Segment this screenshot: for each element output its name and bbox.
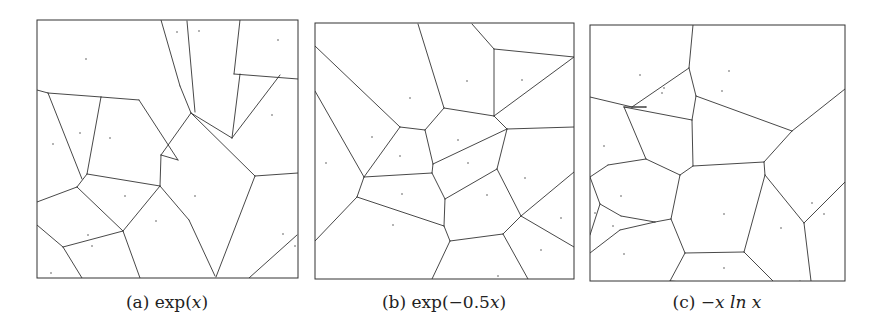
voronoi-edge <box>357 177 364 197</box>
voronoi-site <box>603 145 605 147</box>
voronoi-site <box>392 224 394 226</box>
voronoi-edge <box>764 162 765 175</box>
voronoi-edge <box>782 281 800 290</box>
voronoi-edge <box>123 186 160 231</box>
voronoi-edge <box>445 169 497 199</box>
voronoi-edge <box>655 219 671 222</box>
voronoi-edge <box>692 120 693 166</box>
voronoi-edge <box>63 247 82 278</box>
voronoi-site <box>486 194 488 196</box>
voronoi-site <box>325 162 327 164</box>
voronoi-edge <box>696 96 792 131</box>
voronoi-figure <box>0 0 879 334</box>
voronoi-edge <box>521 216 574 247</box>
voronoi-edge <box>590 165 608 177</box>
voronoi-edge <box>433 129 507 164</box>
caption-c-var: x ln x <box>715 292 761 312</box>
voronoi-edge <box>503 216 521 234</box>
voronoi-site <box>780 227 782 229</box>
voronoi-edge <box>357 197 444 226</box>
caption-a-text: (a) exp( <box>126 292 192 312</box>
voronoi-site <box>282 233 284 235</box>
voronoi-site <box>52 143 54 145</box>
voronoi-edge <box>507 127 574 129</box>
voronoi-site <box>721 90 723 92</box>
voronoi-edge <box>139 100 178 160</box>
caption-a-var: x <box>192 292 202 312</box>
voronoi-site <box>521 79 523 81</box>
voronoi-edge <box>444 108 494 116</box>
voronoi-edge <box>680 166 693 175</box>
voronoi-site <box>811 202 813 204</box>
caption-b: (b) exp(−0.5x) <box>382 292 506 312</box>
caption-a-suffix: ) <box>201 292 208 312</box>
voronoi-site <box>728 70 730 72</box>
voronoi-edge <box>590 230 620 253</box>
voronoi-edge <box>315 91 364 177</box>
caption-c: (c) −x ln x <box>673 292 762 312</box>
voronoi-site <box>277 39 279 41</box>
voronoi-edge <box>161 113 191 155</box>
voronoi-site <box>194 195 196 197</box>
voronoi-edge <box>472 24 494 49</box>
voronoi-edge <box>671 175 680 219</box>
voronoi-edge <box>608 159 646 165</box>
voronoi-edge <box>670 281 782 290</box>
voronoi-site <box>155 220 157 222</box>
voronoi-edge <box>425 108 444 130</box>
voronoi-edge <box>744 252 782 290</box>
voronoi-edge <box>364 173 432 177</box>
voronoi-panel-a <box>37 20 298 278</box>
voronoi-edge <box>494 49 574 57</box>
caption-a: (a) exp(x) <box>126 292 208 312</box>
voronoi-edge <box>187 21 195 112</box>
voronoi-edge <box>249 235 297 278</box>
voronoi-site <box>620 195 622 197</box>
voronoi-panel-c <box>590 25 845 290</box>
voronoi-edge <box>503 234 528 279</box>
voronoi-edge <box>689 68 696 96</box>
voronoi-site <box>409 97 411 99</box>
voronoi-edges <box>315 24 574 279</box>
voronoi-site <box>371 136 373 138</box>
voronoi-edge <box>693 162 764 166</box>
voronoi-edge <box>450 234 503 241</box>
voronoi-edge <box>624 107 692 120</box>
voronoi-edge <box>161 20 180 86</box>
voronoi-site <box>91 245 93 247</box>
voronoi-site <box>467 162 469 164</box>
voronoi-site <box>109 137 111 139</box>
voronoi-edge <box>425 130 433 164</box>
voronoi-site <box>176 31 178 33</box>
voronoi-edge <box>400 127 425 130</box>
voronoi-edge <box>191 113 255 176</box>
panel-border <box>37 20 298 278</box>
panel-border <box>315 23 574 279</box>
voronoi-edge <box>620 222 655 230</box>
voronoi-edge <box>804 223 811 281</box>
voronoi-site <box>50 272 52 274</box>
voronoi-edge <box>123 231 140 278</box>
voronoi-site <box>85 58 87 60</box>
voronoi-edge <box>232 75 280 138</box>
voronoi-edge <box>255 173 298 176</box>
voronoi-edge <box>77 187 123 231</box>
voronoi-site <box>594 212 596 214</box>
voronoi-edge <box>418 24 444 108</box>
voronoi-site <box>457 139 459 141</box>
voronoi-edge <box>191 113 232 138</box>
voronoi-site <box>823 213 825 215</box>
voronoi-edge <box>432 164 433 173</box>
voronoi-edge <box>77 174 87 187</box>
voronoi-site <box>524 177 526 179</box>
voronoi-edge <box>87 97 101 174</box>
voronoi-edge <box>37 225 63 247</box>
voronoi-edge <box>497 169 521 216</box>
voronoi-site <box>661 92 663 94</box>
voronoi-edges <box>590 25 845 290</box>
voronoi-edge <box>101 97 139 100</box>
voronoi-panel-b <box>315 23 574 279</box>
voronoi-site <box>497 275 499 277</box>
voronoi-edge <box>63 231 123 247</box>
voronoi-edge <box>180 86 191 113</box>
